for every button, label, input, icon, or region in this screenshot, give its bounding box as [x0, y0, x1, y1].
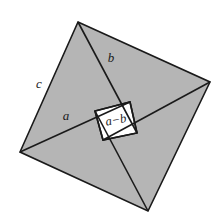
pythagorean-diagram-svg: Pythagorean theorem dissection diagram c… — [0, 0, 224, 224]
label-c: c — [36, 76, 42, 91]
diagram-canvas: Pythagorean theorem dissection diagram c… — [0, 0, 224, 224]
label-a: a — [63, 108, 70, 123]
label-b: b — [108, 50, 115, 65]
